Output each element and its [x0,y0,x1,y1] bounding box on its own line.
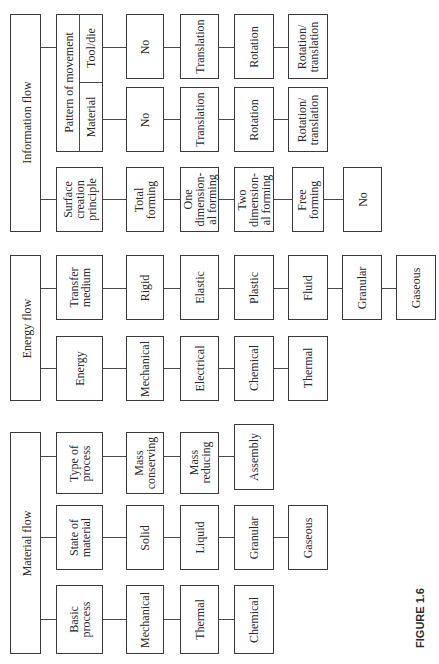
connector [274,199,292,200]
connector [219,47,234,48]
connector [164,456,180,457]
transfer-medium-label: Transfer medium [56,255,103,320]
sm-granular-label: Granular [234,506,274,571]
td-no-label: No [126,15,164,80]
connector [219,199,234,200]
ma-no-label: No [126,88,164,153]
bp-chemical-label: Chemical [234,586,274,655]
connector [219,537,234,538]
sm-gaseous-label: Gaseous [288,506,328,571]
type-of-process-label: Type of process [56,433,103,495]
sc-two-dim-label: Two dimension- al forming [234,168,274,233]
material-label: Material [79,83,103,151]
connector [219,456,234,457]
tp-mass-conserving-label: Mass conserving [126,432,164,494]
connector [164,619,180,620]
connector [103,368,126,369]
connector [103,537,126,538]
connector [41,47,56,48]
connector [274,537,288,538]
connector [164,119,180,120]
connector [274,119,288,120]
connector [41,288,56,289]
energy-flow-title: Energy flow [11,256,42,402]
connector [41,456,56,457]
connector [103,47,126,48]
connector [164,47,180,48]
sc-total-forming-label: Total forming [126,168,164,233]
state-of-material-label: State of material [56,505,103,570]
en-thermal-label: Thermal [288,336,328,401]
connector [219,368,234,369]
tm-rigid-label: Rigid [126,256,164,321]
sc-one-dim-label: One dimension- al forming [180,167,219,232]
pattern-of-movement-label: Pattern of movement [57,14,80,152]
tm-granular-label: Granular [342,256,382,321]
sc-free-forming-label: Free forming [292,168,324,233]
tm-gaseous-label: Gaseous [396,256,436,321]
tm-plastic-label: Plastic [234,256,274,321]
tp-mass-reducing-label: Mass reducing [180,432,219,494]
sm-solid-label: Solid [126,506,164,571]
connector [274,47,288,48]
connector [164,199,180,200]
sc-no-label: No [343,167,382,232]
connector [274,288,288,289]
connector [103,119,126,120]
energy-label: Energy [56,336,103,401]
connector [41,537,56,538]
connector [103,619,126,620]
sm-liquid-label: Liquid [180,505,219,570]
tm-elastic-label: Elastic [180,255,219,320]
ma-rot-trans-label: Rotation/ translation [288,88,328,153]
connector [219,619,234,620]
connector [219,288,234,289]
connector [103,456,126,457]
ma-rotation-label: Rotation [234,88,274,153]
connector [274,368,288,369]
bp-mechanical-label: Mechanical [126,586,164,655]
material-flow-title: Material flow [11,433,42,655]
connector [219,119,234,120]
tp-assembly-label: Assembly [234,424,274,490]
information-flow-title: Information flow [11,14,42,232]
bp-thermal-label: Thermal [180,585,219,654]
connector [164,368,180,369]
td-rotation-label: Rotation [234,15,274,80]
connector [164,288,180,289]
connector [103,288,126,289]
connector [41,199,56,200]
connector [41,619,56,620]
tm-fluid-label: Fluid [288,256,328,321]
en-mechanical-label: Mechanical [126,337,164,402]
connector [41,368,56,369]
connector [324,199,343,200]
connector [103,199,126,200]
ma-translation-label: Translation [180,87,219,152]
tool-die-label: Tool/die [79,14,103,82]
connector [328,288,342,289]
figure-caption: FIGURE 1.6 [413,578,427,658]
connector [164,537,180,538]
basic-process-label: Basic process [56,585,103,654]
connector [382,288,396,289]
en-electrical-label: Electrical [180,336,219,401]
en-chemical-label: Chemical [234,336,274,401]
surface-creation-label: Surface creation principle [56,167,103,232]
td-rot-trans-label: Rotation/ translation [288,15,328,80]
td-translation-label: Translation [180,14,219,79]
